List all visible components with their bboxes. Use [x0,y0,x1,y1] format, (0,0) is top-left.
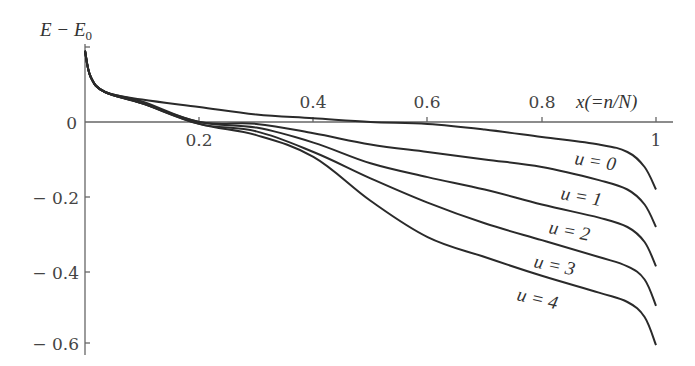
y-tick-label-neg0.4: − 0.4 [32,263,79,283]
y-tick-label-0: 0 [66,113,77,133]
curve-label-u4: u = 4 [515,283,560,313]
x-tick-label-0.4: 0.4 [299,92,326,112]
x-tick-label-0.8: 0.8 [528,92,555,112]
curve-label-u2: u = 2 [547,216,592,245]
y-axis-title: E − E0 [39,19,92,43]
x-ticks [199,117,656,122]
energy-chart: 0 − 0.2 − 0.4 − 0.6 0.2 0.4 0.6 0.8 1 E … [0,0,695,366]
y-tick-label-neg0.6: − 0.6 [32,334,79,354]
curve-u0 [85,51,656,190]
x-tick-label-0.6: 0.6 [413,92,440,112]
x-tick-label-0.2: 0.2 [185,130,212,150]
y-ticks [85,47,90,343]
y-tick-label-neg0.2: − 0.2 [32,188,79,208]
x-axis-title: x(=n/N) [575,91,637,113]
curve-label-u1: u = 1 [559,182,603,210]
x-tick-label-1: 1 [651,130,662,150]
curve-label-u0: u = 0 [573,147,618,174]
